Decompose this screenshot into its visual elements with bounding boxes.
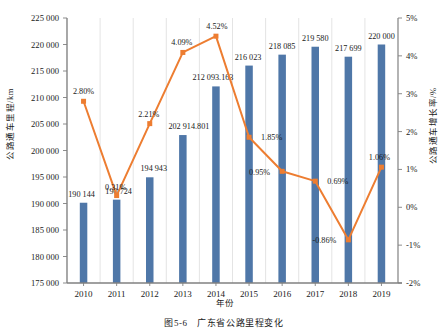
- y-right-axis-title: 公路通车增长率/%: [426, 66, 438, 186]
- figure-caption: 图5-6 广东省公路里程变化: [0, 316, 448, 329]
- svg-text:194 943: 194 943: [140, 164, 167, 173]
- svg-text:2017: 2017: [306, 289, 325, 299]
- svg-text:4.09%: 4.09%: [171, 38, 192, 47]
- svg-text:210 000: 210 000: [31, 93, 59, 103]
- svg-text:1%: 1%: [406, 164, 417, 174]
- svg-text:2011: 2011: [108, 289, 126, 299]
- svg-text:0.31%: 0.31%: [105, 183, 126, 192]
- svg-text:175 000: 175 000: [31, 278, 59, 288]
- svg-text:2%: 2%: [406, 127, 417, 137]
- svg-text:2010: 2010: [75, 289, 94, 299]
- left-axis-ticks: 175 000180 000185 000190 000195 000200 0…: [31, 13, 67, 288]
- svg-text:200 000: 200 000: [31, 146, 59, 156]
- svg-text:190 000: 190 000: [31, 199, 59, 209]
- svg-text:0.69%: 0.69%: [327, 177, 348, 186]
- svg-text:212 093.163: 212 093.163: [192, 73, 233, 82]
- svg-text:217 699: 217 699: [335, 44, 362, 53]
- svg-text:1.85%: 1.85%: [261, 133, 282, 142]
- svg-text:219 580: 219 580: [302, 34, 329, 43]
- x-axis-title: 年份: [185, 296, 265, 308]
- svg-text:195 000: 195 000: [31, 172, 59, 182]
- svg-text:1.06%: 1.06%: [369, 153, 390, 162]
- svg-text:225 000: 225 000: [31, 13, 59, 23]
- svg-text:220 000: 220 000: [368, 32, 395, 41]
- svg-text:185 000: 185 000: [31, 225, 59, 235]
- svg-text:218 085: 218 085: [269, 42, 296, 51]
- svg-text:4.52%: 4.52%: [206, 22, 227, 31]
- svg-text:190 144: 190 144: [68, 190, 95, 199]
- svg-text:2.80%: 2.80%: [73, 87, 94, 96]
- y-left-axis-title: 公路通车里程/km: [3, 69, 15, 179]
- figure-container: 175 000180 000185 000190 000195 000200 0…: [0, 0, 448, 330]
- svg-text:2016: 2016: [273, 289, 292, 299]
- svg-text:215 000: 215 000: [31, 66, 59, 76]
- svg-text:-1%: -1%: [406, 240, 420, 250]
- svg-text:-0.86%: -0.86%: [312, 236, 336, 245]
- svg-text:5%: 5%: [406, 13, 417, 23]
- chart-plot-area: 175 000180 000185 000190 000195 000200 0…: [0, 0, 448, 300]
- svg-text:-2%: -2%: [406, 278, 420, 288]
- svg-text:2.21%: 2.21%: [138, 110, 159, 119]
- svg-text:0.95%: 0.95%: [249, 168, 270, 177]
- svg-text:2012: 2012: [141, 289, 159, 299]
- svg-text:0%: 0%: [406, 202, 417, 212]
- svg-text:4%: 4%: [406, 51, 417, 61]
- svg-text:216 023: 216 023: [235, 53, 262, 62]
- chart-svg: 175 000180 000185 000190 000195 000200 0…: [0, 0, 448, 330]
- svg-text:220 000: 220 000: [31, 40, 59, 50]
- svg-text:205 000: 205 000: [31, 119, 59, 129]
- svg-text:3%: 3%: [406, 89, 417, 99]
- svg-text:180 000: 180 000: [31, 252, 59, 262]
- svg-text:2019: 2019: [372, 289, 391, 299]
- svg-text:2018: 2018: [339, 289, 358, 299]
- svg-text:202 914.801: 202 914.801: [168, 122, 209, 131]
- growth-percent-labels: 2.80%0.31%2.21%4.09%4.52%1.85%0.95%0.69%…: [73, 22, 390, 245]
- right-axis-ticks: -2%-1%0%1%2%3%4%5%: [398, 13, 420, 288]
